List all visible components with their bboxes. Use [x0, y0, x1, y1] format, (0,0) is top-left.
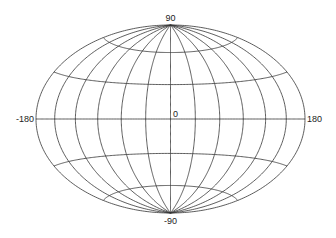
label-south: -90 — [164, 216, 177, 226]
label-center: 0 — [173, 109, 178, 119]
hammer-projection-map: 90 -90 -180 180 0 — [0, 0, 336, 238]
label-west: -180 — [16, 114, 34, 124]
graticule — [36, 25, 305, 213]
label-north: 90 — [165, 13, 175, 23]
label-east: 180 — [307, 114, 322, 124]
